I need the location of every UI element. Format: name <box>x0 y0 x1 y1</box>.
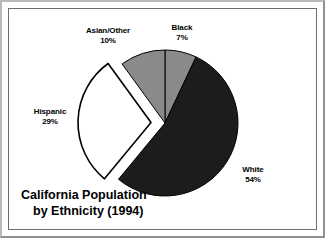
chart-title: California Population by Ethnicity (1994… <box>21 187 147 219</box>
pie-label-black-name: Black <box>161 23 203 33</box>
chart-figure: Asian/Other 10% Black 7% Hispanic 29% Wh… <box>0 0 325 238</box>
pie-label-black: Black 7% <box>161 23 203 43</box>
pie-label-white-percent: 54% <box>231 175 275 185</box>
pie-label-asian-other: Asian/Other 10% <box>71 26 145 46</box>
chart-title-line-1: California Population <box>21 188 147 202</box>
pie-label-white: White 54% <box>231 165 275 185</box>
pie-label-hispanic: Hispanic 29% <box>21 107 79 127</box>
pie-chart-plot-area: Asian/Other 10% Black 7% Hispanic 29% Wh… <box>9 9 316 229</box>
pie-slice-group <box>78 50 238 196</box>
pie-label-black-percent: 7% <box>161 33 203 43</box>
pie-label-asian-other-percent: 10% <box>71 36 145 46</box>
chart-title-line-2: by Ethnicity (1994) <box>21 203 147 219</box>
pie-label-hispanic-name: Hispanic <box>21 107 79 117</box>
pie-label-asian-other-name: Asian/Other <box>71 26 145 36</box>
pie-label-white-name: White <box>231 165 275 175</box>
pie-label-hispanic-percent: 29% <box>21 117 79 127</box>
